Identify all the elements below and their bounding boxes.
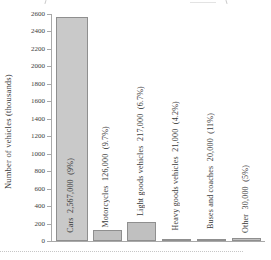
- y-axis-tick: [47, 154, 51, 155]
- y-axis-tick-label: 2200: [19, 45, 45, 53]
- y-axis-tick-label: 600: [19, 185, 45, 193]
- y-axis-tick: [47, 14, 51, 15]
- y-axis-tick: [47, 49, 51, 50]
- bar-light-goods-vehicles: [127, 222, 156, 241]
- bar-buses-and-coaches: [197, 239, 226, 241]
- y-axis-tick: [47, 119, 51, 120]
- y-axis-tick-label: 0: [19, 237, 45, 245]
- y-axis-tick: [47, 101, 51, 102]
- y-axis-tick: [47, 171, 51, 172]
- bar-other: [232, 238, 261, 241]
- y-axis-tick-label: 800: [19, 167, 45, 175]
- page-dotted-divider: [0, 251, 243, 252]
- bar-chart-screenshot: Number of vehicles (thousands) 020040060…: [0, 0, 271, 260]
- bar-label-other: Other 30,000 (5%): [241, 165, 251, 233]
- y-axis-tick-label: 1200: [19, 132, 45, 140]
- y-axis-tick: [47, 31, 51, 32]
- y-axis-tick: [47, 66, 51, 67]
- bar-heavy-goods-vehicles: [162, 239, 191, 241]
- y-axis-tick: [47, 84, 51, 85]
- y-axis-tick-label: 2600: [19, 10, 45, 18]
- bar-label-buses-and-coaches: Buses and coaches 20,000 (11%): [206, 113, 216, 229]
- y-axis-title: Number of vehicles (thousands): [3, 52, 13, 212]
- y-axis-line: [51, 14, 52, 241]
- bar-label-cars: Cars 2,567,000 (9%): [66, 158, 76, 233]
- y-axis-tick-label: 1600: [19, 97, 45, 105]
- bar-motorcycles: [93, 230, 122, 241]
- y-axis-tick: [47, 241, 51, 242]
- y-axis-tick-label: 2400: [19, 27, 45, 35]
- bar-label-heavy-goods-vehicles: Heavy goods vehicles 21,000 (4.2%): [171, 101, 181, 230]
- y-axis-tick-label: 1400: [19, 115, 45, 123]
- y-axis-tick-label: 200: [19, 220, 45, 228]
- y-axis-tick-label: 1800: [19, 80, 45, 88]
- vehicles-bar-chart: Number of vehicles (thousands) 020040060…: [0, 0, 271, 260]
- bar-label-light-goods-vehicles: Light goods vehicles 217,000 (6.7%): [136, 86, 146, 216]
- y-axis-tick: [47, 136, 51, 137]
- y-axis-tick-label: 2000: [19, 62, 45, 70]
- y-axis-tick-label: 1000: [19, 150, 45, 158]
- y-axis-tick: [47, 206, 51, 207]
- x-axis-line: [51, 241, 265, 242]
- y-axis-tick-label: 400: [19, 202, 45, 210]
- y-axis-tick: [47, 189, 51, 190]
- y-axis-tick: [47, 224, 51, 225]
- bar-label-motorcycles: Motorcycles 126,000 (9.7%): [101, 126, 111, 228]
